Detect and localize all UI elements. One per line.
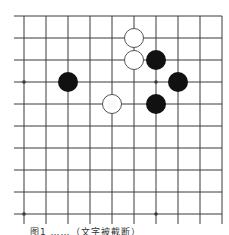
black-stone xyxy=(146,94,166,114)
star-point xyxy=(22,212,26,216)
grid-lines xyxy=(14,16,222,224)
white-stone xyxy=(125,51,144,70)
black-stone xyxy=(58,72,78,92)
black-stone xyxy=(146,50,166,70)
white-stone xyxy=(125,29,144,48)
star-point xyxy=(154,80,158,84)
star-point xyxy=(22,80,26,84)
star-point xyxy=(154,212,158,216)
figure-caption: 图1 ……（文字被截断） xyxy=(30,228,141,235)
go-board xyxy=(0,0,229,235)
black-stone xyxy=(168,72,188,92)
stones xyxy=(58,29,188,115)
white-stone xyxy=(103,95,122,114)
